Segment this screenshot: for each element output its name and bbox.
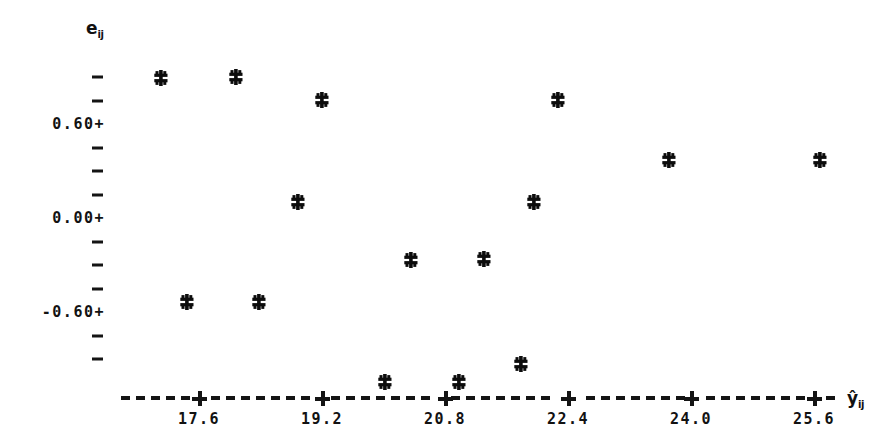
x-axis-baseline-segment — [361, 396, 370, 400]
x-axis-baseline-segment — [736, 396, 745, 400]
x-axis-baseline-segment — [226, 396, 235, 400]
y-axis-minor-tick — [92, 264, 103, 267]
x-axis-baseline-segment — [826, 396, 835, 400]
y-axis-minor-tick — [92, 76, 103, 79]
x-axis-baseline-segment — [631, 396, 640, 400]
x-axis-baseline-segment — [301, 396, 310, 400]
data-point-marker — [291, 194, 306, 211]
x-axis-tick-mark — [315, 391, 330, 406]
x-axis-baseline-segment — [481, 396, 490, 400]
x-axis-baseline-segment — [616, 396, 625, 400]
x-axis-baseline-segment — [466, 396, 475, 400]
x-axis-baseline-segment — [256, 396, 265, 400]
x-axis-tick-label: 22.4 — [547, 410, 589, 428]
x-axis-baseline-segment — [391, 396, 400, 400]
x-axis-baseline-segment — [151, 396, 160, 400]
data-point-marker — [252, 294, 267, 311]
x-axis-tick-label: 17.6 — [178, 410, 220, 428]
data-point-marker — [378, 374, 393, 391]
data-point-marker — [154, 70, 169, 87]
x-axis-baseline-segment — [241, 396, 250, 400]
x-axis-baseline-segment — [766, 396, 775, 400]
y-axis-minor-tick — [92, 146, 103, 149]
x-axis-baseline-segment — [661, 396, 670, 400]
x-axis-baseline-segment — [526, 396, 535, 400]
y-axis-minor-tick — [92, 334, 103, 337]
x-axis-title: ŷij — [847, 388, 864, 410]
x-axis-baseline-segment — [796, 396, 805, 400]
y-axis-tick-label: 0.00+ — [0, 209, 105, 227]
x-axis-baseline-segment — [376, 396, 385, 400]
x-axis-baseline-segment — [211, 396, 220, 400]
x-axis-baseline-segment — [166, 396, 175, 400]
x-axis-tick-mark — [438, 391, 453, 406]
data-point-marker — [527, 194, 542, 211]
residual-scatter-plot: eij ŷij 0.60+0.00+-0.60+ 17.619.220.822.… — [0, 0, 894, 448]
x-axis-baseline-segment — [271, 396, 280, 400]
x-axis-tick-mark — [561, 391, 576, 406]
x-axis-baseline-segment — [646, 396, 655, 400]
x-axis-title-subscript: ij — [858, 399, 864, 410]
x-axis-baseline-segment — [181, 396, 190, 400]
y-axis-minor-tick — [92, 358, 103, 361]
x-axis-baseline-segment — [541, 396, 550, 400]
x-axis-baseline-segment — [586, 396, 595, 400]
x-axis-baseline-segment — [511, 396, 520, 400]
x-axis-baseline-segment — [496, 396, 505, 400]
y-axis-minor-tick — [92, 240, 103, 243]
x-axis-tick-label: 24.0 — [670, 410, 712, 428]
x-axis-tick-mark — [807, 391, 822, 406]
x-axis-baseline-segment — [706, 396, 715, 400]
x-axis-baseline-segment — [601, 396, 610, 400]
x-axis-tick-mark — [192, 391, 207, 406]
x-axis-tick-label: 19.2 — [301, 410, 343, 428]
y-axis-tick-label: -0.60+ — [0, 303, 105, 321]
x-axis-baseline-segment — [421, 396, 430, 400]
data-point-marker — [452, 374, 467, 391]
x-axis-baseline-segment — [751, 396, 760, 400]
y-axis-minor-tick — [92, 193, 103, 196]
x-axis-baseline-segment — [721, 396, 730, 400]
y-axis-tick-label: 0.60+ — [0, 115, 105, 133]
x-axis-baseline-segment — [331, 396, 340, 400]
x-axis-baseline-segment — [406, 396, 415, 400]
x-axis-baseline-segment — [346, 396, 355, 400]
y-axis-minor-tick — [92, 170, 103, 173]
x-axis-title-base: ŷ — [847, 388, 858, 408]
data-point-marker — [514, 356, 529, 373]
x-axis-tick-label: 20.8 — [424, 410, 466, 428]
y-axis-title: eij — [86, 18, 103, 40]
y-axis-minor-tick — [92, 99, 103, 102]
data-point-marker — [229, 69, 244, 86]
y-axis-title-base: e — [86, 18, 98, 38]
y-axis-minor-tick — [92, 287, 103, 290]
x-axis-tick-mark — [684, 391, 699, 406]
x-axis-tick-label: 25.6 — [793, 410, 835, 428]
data-point-marker — [813, 152, 828, 169]
data-point-marker — [551, 92, 566, 109]
data-point-marker — [662, 152, 677, 169]
data-point-marker — [477, 251, 492, 268]
x-axis-baseline-segment — [781, 396, 790, 400]
x-axis-baseline-segment — [136, 396, 145, 400]
data-point-marker — [180, 294, 195, 311]
data-point-marker — [404, 252, 419, 269]
data-point-marker — [315, 92, 330, 109]
y-axis-title-subscript: ij — [98, 29, 104, 40]
x-axis-baseline-segment — [286, 396, 295, 400]
x-axis-baseline-segment — [121, 396, 130, 400]
